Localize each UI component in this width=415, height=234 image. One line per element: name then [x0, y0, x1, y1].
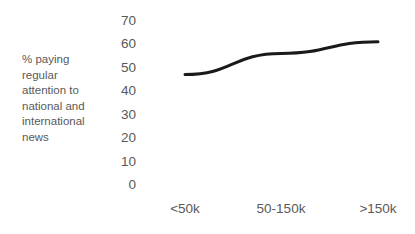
y-tick-label: 30 [100, 108, 136, 122]
y-tick-label: 40 [100, 84, 136, 98]
y-tick-label: 10 [100, 155, 136, 169]
x-axis-tick-labels: <50k50-150k>150k [0, 200, 415, 224]
y-axis-tick-labels: 706050403020100 [100, 10, 136, 196]
y-axis-title: % paying regular attention to national a… [22, 52, 102, 145]
y-tick-label: 50 [100, 61, 136, 75]
y-tick-label: 0 [100, 178, 136, 192]
x-tick-label: >150k [359, 200, 396, 218]
line-chart: % paying regular attention to national a… [0, 0, 415, 234]
y-tick-label: 60 [100, 37, 136, 51]
x-tick-label: <50k [170, 200, 200, 218]
y-tick-label: 20 [100, 131, 136, 145]
x-tick-label: 50-150k [257, 200, 306, 218]
data-series-line [185, 42, 378, 75]
y-tick-label: 70 [100, 14, 136, 28]
